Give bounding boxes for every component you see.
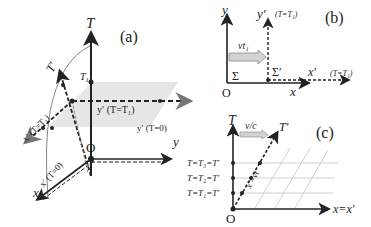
x-prime-t0-label: x′ (T=0) (37, 160, 64, 189)
y-prime-t1-label: y′ (T=T₁) (97, 104, 135, 116)
panel-c: T v/c T' (c) T=T₃=T′ T=T₂=T′ T=T₁=T′ x′=… (187, 113, 355, 226)
origin-label-a: O (86, 140, 95, 155)
b-x-prime-label: x′ (307, 65, 316, 79)
c-rotation-arrow (240, 130, 268, 139)
b-displacement-label: vt₁ (238, 40, 249, 51)
c-row-t3: T=T₃=T′ (187, 158, 220, 168)
sigma-prime-label: Σ′ (272, 65, 282, 79)
c-x-label: x=x′ (332, 202, 355, 216)
c-t-label: T (228, 113, 237, 128)
panel-c-tag: (c) (316, 124, 334, 142)
displacement-arrow (229, 50, 266, 64)
b-y-label: y (220, 2, 228, 17)
panel-a: T (a) T' T1 y′ (T=T₁) y′ (T=0) y O x′ (T… (20, 15, 188, 200)
panel-b-tag: (b) (325, 9, 344, 27)
y-axis-label: y (171, 134, 179, 149)
b-origin-label: O (222, 86, 231, 100)
t-prime-axis-label: T' (43, 59, 60, 74)
c-t-prime-label: T' (279, 120, 289, 134)
y-prime-t0-label: y′ (T=0) (137, 123, 167, 133)
b-x-label: x (289, 84, 296, 99)
sigma-label: Σ (232, 69, 239, 83)
b-x-prime-cond: (T=T₁) (330, 69, 353, 78)
x-axis-label: x (32, 185, 39, 200)
c-row-t2: T=T₂=T′ (187, 173, 220, 183)
b-y-prime-cond: (T=T₁) (275, 10, 298, 19)
c-row-t1: T=T₁=T′ (187, 188, 220, 198)
c-line-label: x′=vt (243, 169, 261, 191)
panel-a-tag: (a) (120, 28, 138, 46)
panel-b: y y′ (T=T₁) (b) vt₁ Σ Σ′ x′ (T=T₁) O x (220, 2, 353, 100)
relativity-diagram: T (a) T' T1 y′ (T=T₁) y′ (T=0) y O x′ (T… (0, 0, 371, 227)
c-slope-label: v/c (245, 120, 257, 131)
b-y-prime-label: y′ (255, 6, 266, 21)
c-origin-label: O (226, 211, 235, 226)
t-axis-label: T (86, 15, 96, 31)
t1-label: T1 (80, 71, 89, 84)
